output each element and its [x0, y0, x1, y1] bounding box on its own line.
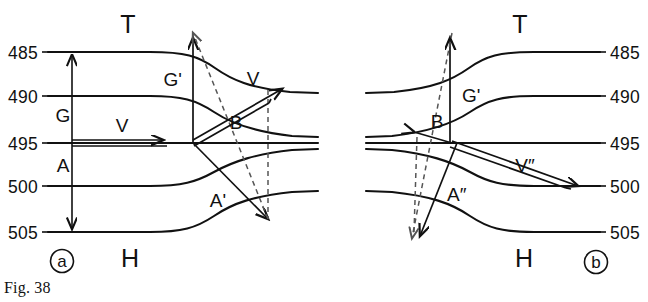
tick-label-495-right: 495	[610, 134, 640, 154]
vector-label-V-double-prime: V″	[515, 155, 535, 176]
panel-marker-a: a	[51, 250, 74, 273]
vector-label-G-prime: G'	[164, 69, 182, 90]
vector-label-B-b: B	[431, 111, 444, 132]
contour-490	[48, 96, 318, 137]
figure-38: 485 490 495 500 505 G A V G' A' B	[0, 0, 648, 302]
contour-485	[48, 52, 318, 93]
label-H-panel-a: H	[121, 244, 139, 272]
contour-500	[48, 149, 318, 186]
label-T-panel-a: T	[120, 10, 135, 38]
panel-a: 485 490 495 500 505 G A V G' A' B	[8, 10, 318, 273]
tick-label-485-left: 485	[8, 43, 38, 63]
vector-label-V-resultant: V	[247, 68, 260, 89]
tick-label-485-right: 485	[610, 43, 640, 63]
panel-b: 485 490 495 500 505 G' A″ B V″ T H b	[366, 10, 640, 274]
tick-label-495-left: 495	[8, 134, 38, 154]
label-H-panel-b: H	[515, 244, 533, 272]
tick-label-490-right: 490	[610, 87, 640, 107]
dashed-drop-b	[414, 137, 417, 232]
tick-label-505-left: 505	[8, 223, 38, 243]
bracket-label-A: A	[57, 155, 70, 176]
panel-a-contours	[48, 52, 318, 232]
panel-marker-b-text: b	[591, 253, 600, 272]
label-T-panel-b: T	[512, 10, 527, 38]
figure-caption: Fig. 38	[4, 279, 51, 297]
tick-label-490-left: 490	[8, 87, 38, 107]
panel-marker-a-text: a	[57, 252, 67, 271]
bracket-label-G: G	[56, 105, 71, 126]
panel-b-contours	[366, 52, 600, 232]
contour-505	[48, 191, 318, 232]
tick-label-500-right: 500	[610, 177, 640, 197]
tick-label-505-right: 505	[610, 223, 640, 243]
vector-label-G-prime-b: G'	[462, 85, 480, 106]
contour-490-b	[366, 96, 600, 137]
vector-label-B: B	[230, 112, 243, 133]
vector-label-V-horizontal: V	[116, 115, 129, 136]
panel-marker-b: b	[585, 251, 608, 274]
vector-label-A-double-prime: A″	[447, 184, 467, 205]
contour-505-b	[366, 191, 600, 232]
vector-label-A-prime: A'	[210, 190, 226, 211]
tick-label-500-left: 500	[8, 177, 38, 197]
contour-485-b	[366, 52, 600, 93]
vector-V-double-prime	[450, 141, 578, 189]
